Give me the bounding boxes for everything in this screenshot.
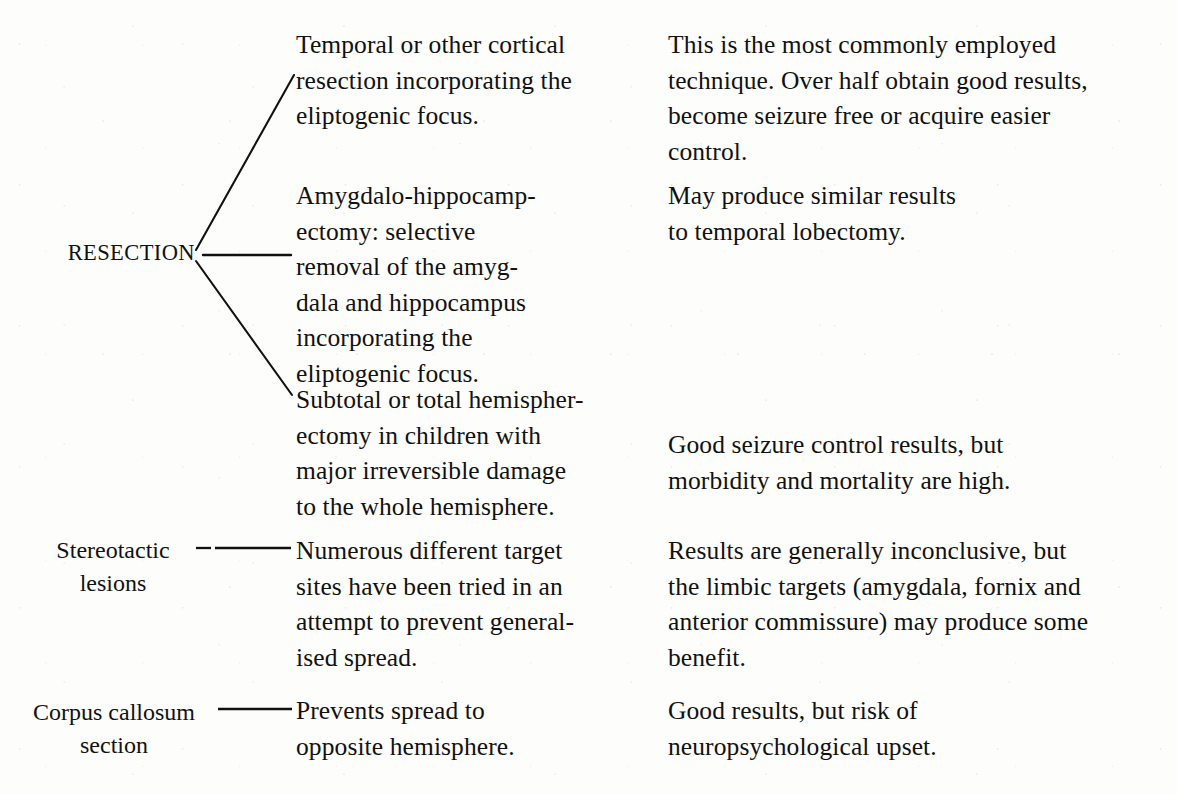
outcome-text-stereotactic-lesions: Results are generally inconclusive, but … [668, 533, 1148, 675]
node-label-stereotactic-lesions: Stereotactic lesions [30, 534, 196, 600]
connector-resection-upper [196, 75, 294, 250]
outcome-text-corpus-callosum: Good results, but risk of neuropsycholog… [668, 693, 1148, 764]
procedure-text-amygdalo-hippocampectomy: Amygdalo-hippocamp- ectomy: selective re… [296, 178, 646, 391]
outcome-text-cortical-resection: This is the most commonly employed techn… [668, 27, 1148, 169]
node-label-corpus-callosum-section: Corpus callosum section [14, 696, 214, 762]
outcome-text-hemispherectomy: Good seizure control results, but morbid… [668, 427, 1148, 498]
node-label-resection: RESECTION [40, 236, 195, 269]
diagram-page: RESECTION Stereotactic lesions Corpus ca… [0, 0, 1177, 794]
procedure-text-hemispherectomy: Subtotal or total hemispher- ectomy in c… [296, 382, 646, 524]
outcome-text-amygdalo-hippocampectomy: May produce similar results to temporal … [668, 178, 1148, 249]
procedure-text-stereotactic-lesions: Numerous different target sites have bee… [296, 533, 646, 675]
procedure-text-corpus-callosum: Prevents spread to opposite hemisphere. [296, 693, 646, 764]
procedure-text-cortical-resection: Temporal or other cortical resection inc… [296, 27, 646, 134]
connector-resection-lower [196, 261, 292, 395]
